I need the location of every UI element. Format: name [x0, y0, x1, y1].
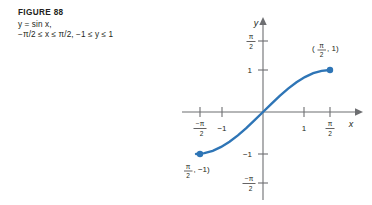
- point-label-lower-left-numerator: π: [186, 163, 191, 170]
- x-tick-label-pi-over-2-numerator: π: [328, 120, 333, 127]
- x-tick-label-neg-pi-over-2-numerator: −π: [196, 120, 205, 127]
- x-tick-label-neg-1: −1: [217, 124, 227, 133]
- y-axis-label: y: [253, 18, 259, 28]
- y-tick-label-neg-pi-over-2: −π 2: [243, 175, 256, 192]
- plot-area: −π 2 −1 1 π 2 π 2 1 −1: [182, 0, 372, 205]
- x-axis-arrow: [355, 108, 363, 115]
- x-axis-label: x: [348, 119, 354, 129]
- figure-caption: FIGURE 88 y = sin x, −π/2 ≤ x ≤ π/2, −1 …: [18, 8, 178, 41]
- x-tick-label-pi-over-2-denominator: 2: [328, 130, 332, 137]
- sine-graph-svg: −π 2 −1 1 π 2 π 2 1 −1: [182, 0, 372, 205]
- point-label-upper-right-numerator: π: [319, 42, 324, 49]
- figure-container: FIGURE 88 y = sin x, −π/2 ≤ x ≤ π/2, −1 …: [0, 0, 372, 205]
- x-tick-label-neg-pi-over-2: −π 2: [194, 120, 207, 137]
- point-label-lower-left: (− π 2 , −1): [182, 163, 210, 179]
- point-label-upper-right-open: (: [312, 44, 315, 53]
- point-label-upper-right-rest: , 1): [327, 44, 339, 53]
- y-tick-label-1: 1: [248, 66, 253, 75]
- left-endpoint-dot: [197, 151, 203, 157]
- caption-equation: y = sin x,: [18, 20, 178, 31]
- point-label-lower-left-rest: , −1): [194, 165, 211, 174]
- x-tick-label-pi-over-2: π 2: [326, 120, 335, 137]
- caption-domain-range: −π/2 ≤ x ≤ π/2, −1 ≤ y ≤ 1: [18, 30, 178, 41]
- y-tick-label-pi-over-2: π 2: [247, 33, 256, 50]
- right-endpoint-dot: [327, 67, 333, 73]
- y-tick-label-neg-1: −1: [243, 150, 253, 159]
- y-tick-label-neg-pi-over-2-denominator: 2: [249, 185, 253, 192]
- x-tick-label-1: 1: [302, 124, 307, 133]
- point-label-upper-right-denominator: 2: [320, 51, 324, 58]
- y-axis-arrow: [259, 17, 266, 25]
- y-tick-label-neg-pi-over-2-numerator: −π: [245, 175, 254, 182]
- point-label-lower-left-denominator: 2: [186, 172, 190, 179]
- x-tick-label-neg-pi-over-2-denominator: 2: [200, 130, 204, 137]
- figure-number: FIGURE 88: [18, 8, 178, 19]
- y-tick-label-pi-over-2-denominator: 2: [249, 43, 253, 50]
- point-label-upper-right: ( π 2 , 1): [312, 42, 339, 58]
- x-axis: [182, 108, 363, 115]
- y-tick-label-pi-over-2-numerator: π: [249, 33, 254, 40]
